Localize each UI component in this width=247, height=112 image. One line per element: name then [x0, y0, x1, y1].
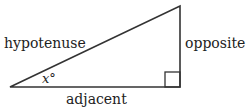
- adjacent-label: adjacent: [66, 91, 127, 107]
- right-triangle-diagram: hypotenuse opposite adjacent x°: [0, 0, 247, 112]
- angle-label: x°: [42, 71, 56, 86]
- right-angle-marker: [165, 72, 180, 87]
- opposite-label: opposite: [185, 35, 245, 51]
- hypotenuse-label: hypotenuse: [4, 35, 86, 51]
